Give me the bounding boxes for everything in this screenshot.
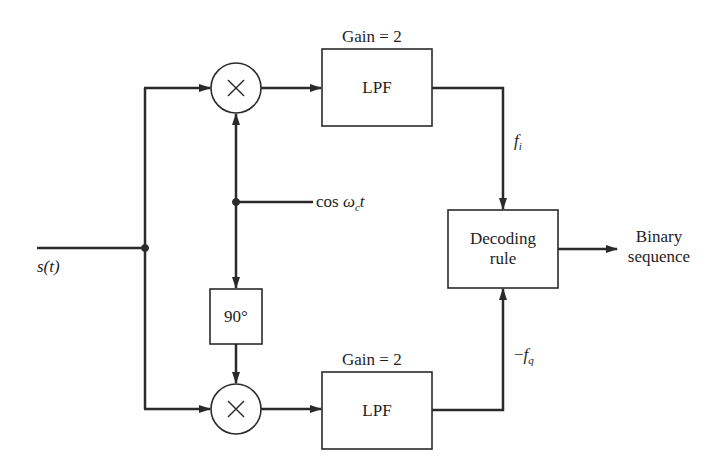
lpf-top-label: LPF	[322, 49, 432, 126]
input-junction-dot	[142, 245, 149, 252]
output-label: Binary sequence	[618, 226, 700, 268]
fq-sub: q	[528, 354, 534, 366]
quadrature-signal-label: −fq	[514, 346, 534, 366]
output-label-line2: sequence	[628, 247, 690, 267]
input-signal-label: s(t)	[37, 258, 60, 275]
carrier-label: cos ωct	[316, 193, 365, 213]
lpf-bottom-gain-label: Gain = 2	[342, 351, 402, 368]
decoder-label-line1: Decoding	[470, 229, 536, 249]
fi-sub: i	[519, 140, 522, 152]
decoder-label-line2: rule	[490, 249, 516, 269]
carrier-label-t: t	[360, 192, 365, 211]
in-phase-path	[432, 88, 503, 209]
decoder-label: Decoding rule	[448, 210, 558, 288]
phase-shifter-label: 90°	[210, 289, 262, 344]
lpf-bottom-label: LPF	[322, 372, 432, 449]
fq-minus: −	[514, 345, 524, 364]
in-phase-signal-label: fi	[514, 132, 522, 152]
lpf-top-gain-label: Gain = 2	[342, 28, 402, 45]
carrier-label-omega: ω	[343, 192, 355, 211]
carrier-junction-dot	[233, 199, 240, 206]
quadrature-path	[432, 289, 503, 410]
output-label-line1: Binary	[636, 227, 682, 247]
carrier-label-cos: cos	[316, 192, 343, 211]
